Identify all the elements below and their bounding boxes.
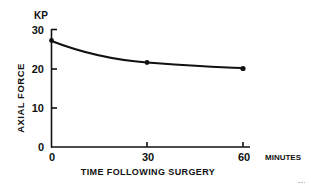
y-axis-title: AXIAL FORCE: [15, 63, 26, 133]
axes: [51, 29, 250, 148]
data-point-0: [49, 38, 54, 43]
y-tick-label-30: 30: [32, 24, 44, 36]
series-axial-force: [49, 38, 246, 71]
y-tick-label-20: 20: [32, 63, 44, 75]
x-axis-title: TIME FOLLOWING SURGERY: [81, 167, 215, 177]
y-unit-label: KP: [34, 10, 48, 21]
data-point-60: [240, 66, 245, 71]
x-tick-label-30: 30: [142, 151, 154, 163]
x-unit-label: MINUTES: [265, 153, 302, 162]
y-tick-label-0: 0: [38, 141, 44, 153]
x-tick-label-0: 0: [49, 151, 55, 163]
axial-force-chart: KP AXIAL FORCE 30 20 10 0 0 30 60 MINUTE…: [0, 0, 311, 185]
data-point-30: [145, 60, 150, 65]
x-tick-label-60: 60: [238, 151, 250, 163]
scan-mark: [298, 182, 305, 183]
y-tick-label-10: 10: [32, 102, 44, 114]
